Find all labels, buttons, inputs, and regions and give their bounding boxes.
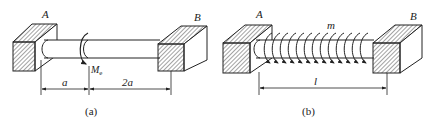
dimension-lines-a xyxy=(41,60,171,95)
shaft-a xyxy=(42,40,160,58)
caption-a: (a) xyxy=(85,105,98,118)
distributed-moment-label: m xyxy=(327,19,335,31)
diagram-svg: Me A B a 2a (a) xyxy=(0,0,432,127)
moment-label: Me xyxy=(90,64,102,77)
dimension-lines-b xyxy=(259,72,387,95)
label-support-b: B xyxy=(194,11,201,23)
label-support-a-b: A xyxy=(255,8,263,20)
dimension-l: l xyxy=(314,75,317,87)
dimension-a: a xyxy=(62,76,68,88)
support-b-block xyxy=(158,26,207,71)
dimension-2a: 2a xyxy=(122,76,134,88)
figure-b: A B m l (b) xyxy=(223,8,422,118)
label-support-a: A xyxy=(41,8,49,20)
support-b-block-b xyxy=(373,25,422,73)
torsion-diagram: Me A B a 2a (a) xyxy=(0,0,432,127)
figure-a: Me A B a 2a (a) xyxy=(13,8,207,118)
label-support-b-b: B xyxy=(410,10,417,22)
caption-b: (b) xyxy=(302,105,315,118)
